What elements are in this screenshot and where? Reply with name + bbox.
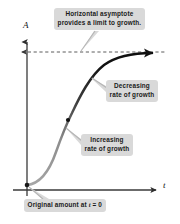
asymptote-callout-tail: [82, 31, 99, 50]
callout-decreasing-line2: rate of growth: [110, 91, 155, 100]
callout-origin-suffix: = 0: [91, 201, 102, 208]
increasing-leader-line: [66, 128, 82, 141]
inflection-point-marker: [66, 118, 70, 122]
callout-decreasing-rate: Decreasing rate of growth: [106, 80, 158, 102]
origin-leader-line: [29, 187, 43, 199]
original-amount-point-marker: [25, 183, 30, 188]
callout-decreasing-line1: Decreasing: [110, 82, 155, 91]
logistic-curve: [27, 53, 152, 185]
origin-callout-tail: [29, 187, 49, 199]
increasing-callout-tail: [66, 128, 81, 145]
logistic-growth-figure: A t Horizontal asymptote provides a limi…: [0, 0, 180, 224]
x-axis-label: t: [163, 180, 166, 190]
callout-horizontal-asymptote: Horizontal asymptote provides a limit to…: [54, 8, 145, 30]
asymptote-leader-line: [81, 31, 95, 51]
callout-original-amount: Original amount at t = 0: [24, 199, 106, 212]
callout-asymptote-line2: provides a limit to growth.: [58, 19, 142, 28]
callout-increasing-line2: rate of growth: [85, 145, 130, 154]
decreasing-callout-tail: [91, 78, 106, 92]
callout-increasing-rate: Increasing rate of growth: [81, 134, 133, 156]
callout-asymptote-line1: Horizontal asymptote: [58, 10, 142, 19]
callout-origin-prefix: Original amount at: [28, 201, 89, 208]
y-axis-label: A: [23, 20, 29, 30]
decreasing-leader-line: [92, 78, 107, 88]
figure-canvas: [0, 0, 180, 224]
callout-increasing-line1: Increasing: [85, 136, 130, 145]
